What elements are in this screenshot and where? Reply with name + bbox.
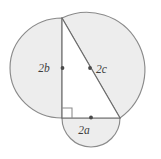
midpoint-dot-vertical-leg [61,66,65,70]
geometry-figure-container: 2b 2c 2a [0,0,161,159]
midpoint-dot-horizontal-leg [89,116,93,120]
label-horizontal-leg: 2a [78,124,90,136]
semicircle-on-horizontal-leg [62,118,120,147]
semicircle-on-vertical-leg [10,18,62,118]
geometry-diagram-svg: 2b 2c 2a [0,0,161,159]
label-vertical-leg: 2b [38,62,50,74]
midpoint-dot-hypotenuse [88,66,92,70]
label-hypotenuse: 2c [96,63,107,75]
